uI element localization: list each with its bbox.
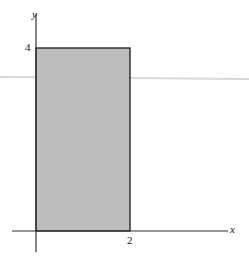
x-tick-2: 2 [127,234,133,246]
shaded-region [36,48,130,231]
y-axis-label: y [32,8,37,20]
chart-canvas [0,0,249,266]
y-tick-4: 4 [25,41,31,53]
x-axis-label: x [230,223,235,235]
